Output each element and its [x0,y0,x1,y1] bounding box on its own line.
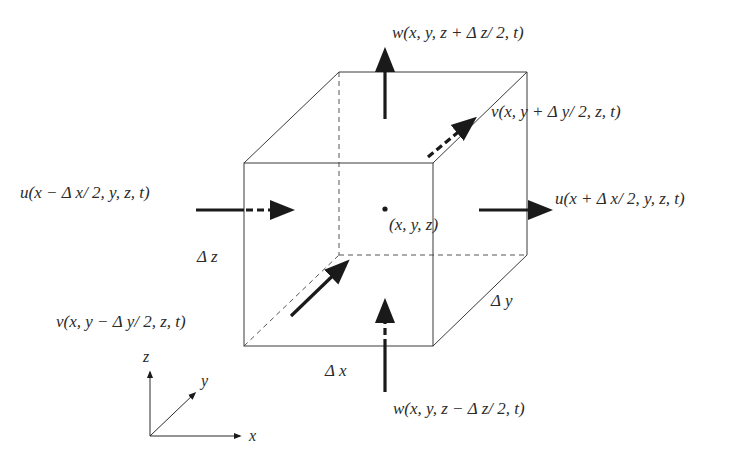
label-w-bottom: w(x, y, z − Δ z/ 2, t) [393,399,525,418]
label-dy: Δ y [490,291,513,310]
label-u-right: u(x + Δ x/ 2, y, z, t) [555,189,685,208]
center-point [382,206,387,211]
control-volume-diagram: (x, y, z) w(x, y, z + Δ z/ 2, t) v(x, y … [0,0,745,470]
label-u-left: u(x − Δ x/ 2, y, z, t) [20,183,150,202]
label-w-top: w(x, y, z + Δ z/ 2, t) [392,23,524,42]
label-v-front: v(x, y − Δ y/ 2, z, t) [56,312,186,331]
label-dx: Δ x [324,361,347,380]
axis-label-y: y [199,372,209,390]
axis-y [150,393,195,436]
center-label: (x, y, z) [389,215,438,234]
label-v-back: v(x, y + Δ y/ 2, z, t) [491,102,621,121]
label-dz: Δ z [196,247,218,266]
coordinate-axes: z y x [142,348,256,444]
axis-label-x: x [248,427,256,444]
arrow-v-front [291,263,346,316]
axis-label-z: z [142,348,150,365]
hidden-edge-left-depth [244,255,339,346]
arrow-v-back [428,120,473,157]
